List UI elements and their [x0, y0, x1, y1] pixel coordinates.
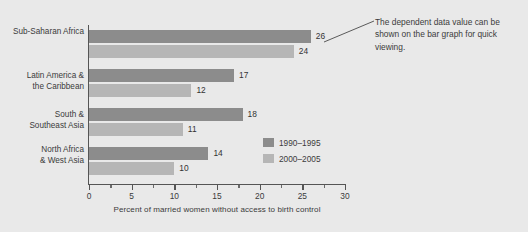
annotation-leader-line	[324, 20, 376, 44]
bar-south-southeast-asia-1990-1995	[89, 108, 243, 121]
bar-north-africa-west-asia-2000-2005	[89, 162, 174, 175]
category-label-north-africa-west-asia: North Africa & West Asia	[0, 145, 84, 166]
legend-item-2000-2005: 2000–2005	[263, 152, 321, 165]
axis-tick-label-20: 20	[250, 191, 270, 201]
axis-tick-10	[174, 185, 175, 190]
category-label-latin-america-caribbean: Latin America & the Caribbean	[0, 71, 84, 92]
bar-sub-saharan-africa-2000-2005	[89, 45, 294, 58]
axis-tick-label-15: 15	[207, 191, 227, 201]
legend-swatch-2000-2005	[263, 154, 274, 163]
axis-minor-tick	[196, 185, 197, 188]
bar-sub-saharan-africa-1990-1995	[89, 30, 311, 43]
bar-value-latin-america-caribbean-1990-1995: 17	[239, 69, 248, 82]
bar-value-north-africa-west-asia-2000-2005: 10	[179, 162, 188, 175]
legend-swatch-1990-1995	[263, 138, 274, 147]
bar-south-southeast-asia-2000-2005	[89, 123, 183, 136]
axis-minor-tick	[238, 185, 239, 188]
bar-chart-figure: Sub-Saharan Africa Latin America & the C…	[0, 0, 528, 232]
bar-value-sub-saharan-africa-2000-2005: 24	[299, 45, 308, 58]
axis-tick-label-0: 0	[79, 191, 99, 201]
axis-tick-label-25: 25	[292, 191, 312, 201]
axis-tick-5	[132, 185, 133, 190]
axis-tick-label-10: 10	[164, 191, 184, 201]
value-axis-line-vertical	[88, 25, 89, 185]
legend-label-1990-1995: 1990–1995	[279, 138, 321, 148]
axis-tick-25	[302, 185, 303, 190]
x-axis-title: Percent of married women without access …	[89, 205, 345, 214]
bar-north-africa-west-asia-1990-1995	[89, 147, 208, 160]
axis-tick-label-30: 30	[335, 191, 355, 201]
legend-item-1990-1995: 1990–1995	[263, 136, 321, 149]
bar-value-south-southeast-asia-1990-1995: 18	[248, 108, 257, 121]
category-label-sub-saharan-africa: Sub-Saharan Africa	[0, 27, 84, 38]
axis-tick-15	[217, 185, 218, 190]
axis-minor-tick	[324, 185, 325, 188]
chart-legend: 1990–1995 2000–2005	[263, 136, 321, 168]
bar-value-latin-america-caribbean-2000-2005: 12	[196, 84, 205, 97]
bar-value-north-africa-west-asia-1990-1995: 14	[213, 147, 222, 160]
category-label-south-southeast-asia: South & Southeast Asia	[0, 110, 84, 131]
axis-tick-20	[260, 185, 261, 190]
legend-label-2000-2005: 2000–2005	[279, 154, 321, 164]
bar-latin-america-caribbean-2000-2005	[89, 84, 191, 97]
axis-minor-tick	[281, 185, 282, 188]
axis-minor-tick	[153, 185, 154, 188]
axis-tick-0	[89, 185, 90, 190]
bar-latin-america-caribbean-1990-1995	[89, 69, 234, 82]
annotation-text: The dependent data value can be shown on…	[375, 16, 523, 53]
axis-tick-label-5: 5	[122, 191, 142, 201]
bar-value-south-southeast-asia-2000-2005: 11	[188, 123, 197, 136]
axis-tick-30	[345, 185, 346, 190]
axis-minor-tick	[110, 185, 111, 188]
